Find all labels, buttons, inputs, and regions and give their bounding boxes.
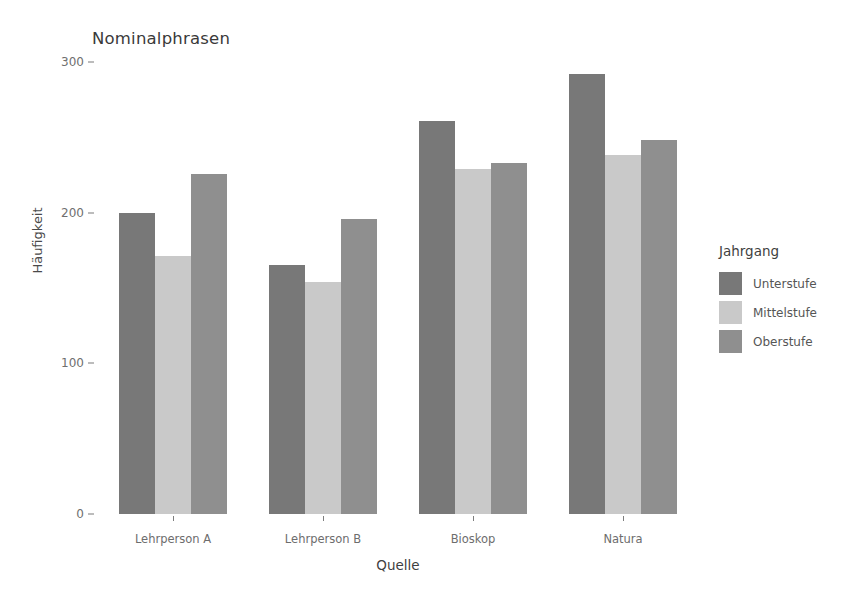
y-axis-title: Häufigkeit [30, 171, 45, 311]
y-axis-ticks: 0100200300 [52, 0, 98, 606]
legend: Jahrgang UnterstufeMittelstufeOberstufe [719, 243, 817, 356]
bar[interactable] [641, 140, 677, 514]
y-tick-label: 300 [61, 55, 84, 69]
bar[interactable] [119, 213, 155, 514]
y-tick-mark [88, 62, 94, 63]
bar[interactable] [191, 174, 227, 515]
x-tick-mark [323, 516, 324, 521]
x-axis-title: Quelle [98, 557, 698, 573]
y-tick-label: 200 [61, 206, 84, 220]
chart-figure: Nominalphrasen Häufigkeit 0100200300 Que… [0, 0, 855, 606]
y-tick-mark [88, 363, 94, 364]
x-tick-mark [173, 516, 174, 521]
x-tick-label: Natura [603, 532, 642, 546]
y-tick-mark [88, 212, 94, 213]
legend-title: Jahrgang [719, 243, 817, 259]
bar[interactable] [569, 74, 605, 514]
bar[interactable] [305, 282, 341, 514]
x-tick-label: Lehrperson B [285, 532, 361, 546]
y-tick-label: 100 [61, 356, 84, 370]
x-tick-label: Bioskop [451, 532, 496, 546]
y-tick-mark [88, 514, 94, 515]
bar[interactable] [455, 169, 491, 514]
legend-label: Mittelstufe [753, 306, 817, 320]
plot-area [98, 62, 698, 514]
legend-swatch [719, 330, 742, 353]
legend-swatch [719, 272, 742, 295]
legend-label: Unterstufe [753, 277, 817, 291]
legend-items: UnterstufeMittelstufeOberstufe [719, 269, 817, 356]
x-tick-label: Lehrperson A [135, 532, 211, 546]
bar[interactable] [605, 155, 641, 514]
bar-group [569, 62, 677, 514]
bar-group [119, 62, 227, 514]
bar[interactable] [269, 265, 305, 514]
legend-item[interactable]: Oberstufe [719, 327, 817, 356]
legend-item[interactable]: Unterstufe [719, 269, 817, 298]
bar[interactable] [419, 121, 455, 514]
bar[interactable] [155, 256, 191, 514]
legend-swatch [719, 301, 742, 324]
bar[interactable] [341, 219, 377, 514]
bar-group [419, 62, 527, 514]
legend-item[interactable]: Mittelstufe [719, 298, 817, 327]
x-tick-mark [623, 516, 624, 521]
bar-group [269, 62, 377, 514]
bar[interactable] [491, 163, 527, 514]
page-title: Nominalphrasen [92, 29, 230, 48]
legend-label: Oberstufe [753, 335, 813, 349]
x-tick-mark [473, 516, 474, 521]
y-tick-label: 0 [76, 507, 84, 521]
